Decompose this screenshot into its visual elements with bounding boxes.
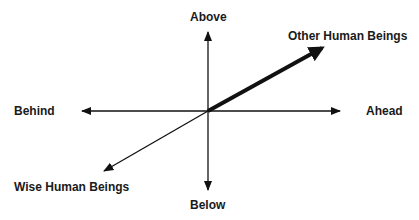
label-above: Above: [190, 10, 227, 24]
label-below: Below: [190, 198, 225, 212]
wise-human-beings-arrow: [104, 111, 208, 171]
label-other-human-beings: Other Human Beings: [288, 29, 407, 43]
other-human-beings-arrow: [208, 48, 322, 111]
label-ahead: Ahead: [366, 104, 403, 118]
label-behind: Behind: [14, 104, 55, 118]
label-wise-human-beings: Wise Human Beings: [14, 180, 129, 194]
